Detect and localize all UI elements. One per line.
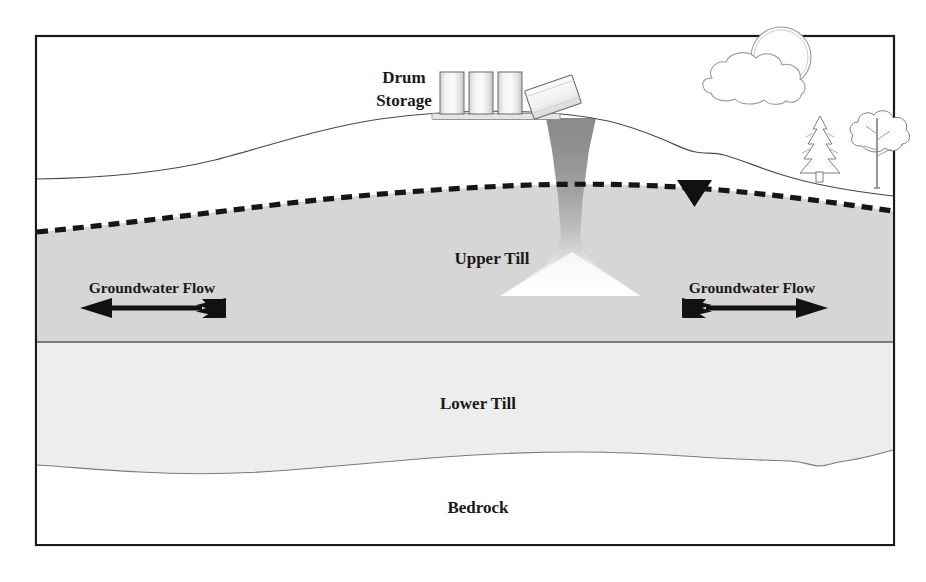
- drum-storage-label-line2: Storage: [376, 91, 432, 110]
- groundwater-flow-label-right: Groundwater Flow: [689, 279, 816, 296]
- drum-upright-3: [498, 72, 522, 114]
- groundwater-flow-label-left: Groundwater Flow: [89, 279, 216, 296]
- cross-section-canvas: Drum Storage Upper Till Lower Till Bedro…: [0, 0, 926, 582]
- cross-section-figure: Drum Storage Upper Till Lower Till Bedro…: [0, 0, 926, 582]
- drum-storage-label-line1: Drum: [382, 68, 425, 87]
- drum-upright-2: [469, 72, 493, 114]
- lower-till-label: Lower Till: [440, 394, 516, 413]
- upper-till-label: Upper Till: [454, 249, 529, 268]
- bedrock-label: Bedrock: [447, 498, 509, 517]
- drum-upright-1: [440, 72, 464, 114]
